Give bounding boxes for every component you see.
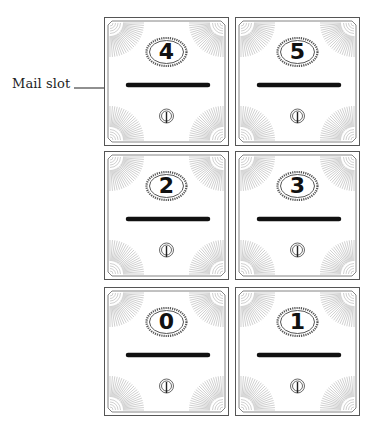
mailbox-number: 0 <box>104 307 229 337</box>
mailbox-3: 3 <box>235 151 360 280</box>
mailbox-number: 4 <box>104 37 229 67</box>
mailbox-number: 2 <box>104 171 229 201</box>
mailbox-number: 1 <box>235 307 360 337</box>
keyhole-icon <box>160 243 174 257</box>
keyhole-icon <box>160 379 174 393</box>
mailbox-2: 2 <box>104 151 229 280</box>
mailbox-4: 4 <box>104 17 229 146</box>
mailbox-5: 5 <box>235 17 360 146</box>
mailbox-number: 3 <box>235 171 360 201</box>
mail-slot-label: Mail slot <box>12 76 70 91</box>
keyhole-icon <box>291 243 305 257</box>
keyhole-icon <box>160 109 174 123</box>
mailbox-0: 0 <box>104 287 229 416</box>
mailbox-1: 1 <box>235 287 360 416</box>
mailbox-number: 5 <box>235 37 360 67</box>
keyhole-icon <box>291 109 305 123</box>
keyhole-icon <box>291 379 305 393</box>
